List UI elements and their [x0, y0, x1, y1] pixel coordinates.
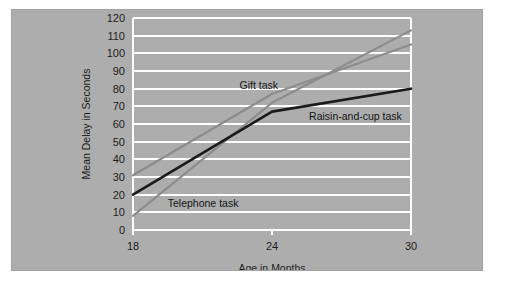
x-axis-title: Age in Months [238, 262, 305, 270]
series-label: Gift task [240, 79, 279, 91]
line-chart: 0102030405060708090100110120 182430 Gift… [12, 10, 482, 270]
y-axis-tick-labels: 0102030405060708090100110120 [107, 12, 125, 236]
series-label: Telephone task [168, 197, 239, 209]
series-annotations: Gift taskTelephone taskRaisin-and-cup ta… [168, 79, 403, 209]
series-label: Raisin-and-cup task [309, 110, 403, 122]
y-tick-label: 90 [113, 65, 125, 77]
y-tick-label: 0 [119, 224, 125, 236]
y-tick-label: 110 [107, 30, 125, 42]
y-tick-label: 30 [113, 171, 125, 183]
y-tick-label: 20 [113, 189, 125, 201]
x-tick-label: 18 [127, 240, 139, 252]
y-tick-label: 40 [113, 153, 125, 165]
x-tick-label: 24 [266, 240, 278, 252]
screenshot-root: 0102030405060708090100110120 182430 Gift… [0, 0, 508, 287]
x-axis-tick-labels: 182430 [127, 240, 417, 252]
chart-container: 0102030405060708090100110120 182430 Gift… [12, 10, 482, 270]
x-tick-label: 30 [405, 240, 417, 252]
y-tick-label: 60 [113, 118, 125, 130]
chart-card: 0102030405060708090100110120 182430 Gift… [12, 10, 482, 270]
y-tick-label: 80 [113, 83, 125, 95]
y-tick-label: 120 [107, 12, 125, 24]
y-tick-label: 10 [113, 206, 125, 218]
y-tick-label: 100 [107, 47, 125, 59]
y-tick-label: 70 [113, 100, 125, 112]
y-tick-label: 50 [113, 136, 125, 148]
y-axis-title: Mean Delay in Seconds [80, 69, 92, 180]
